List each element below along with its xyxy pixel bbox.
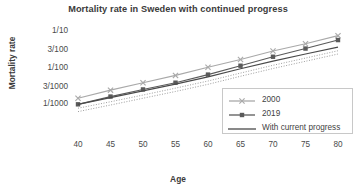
legend-item[interactable]: 2000 [227,92,348,106]
data-point-marker [271,55,275,59]
data-point-marker [336,38,340,42]
legend-item[interactable]: With current progress [227,120,348,134]
mortality-rate-chart: Mortality rate in Sweden with continued … [0,0,356,186]
legend-label: With current progress [262,123,340,132]
legend-swatch-2019 [227,107,257,119]
legend-item[interactable]: 2019 [227,106,348,120]
data-point-marker [303,46,307,50]
legend-label: 2000 [262,95,280,104]
x-axis-title: Age [0,174,356,184]
data-point-marker [238,64,242,68]
data-point-marker [240,113,244,117]
chart-legend: 20002019With current progress [222,88,353,134]
legend-label: 2019 [262,109,280,118]
legend-swatch-2000 [227,93,257,105]
legend-swatch-with-current-progress [227,121,257,133]
